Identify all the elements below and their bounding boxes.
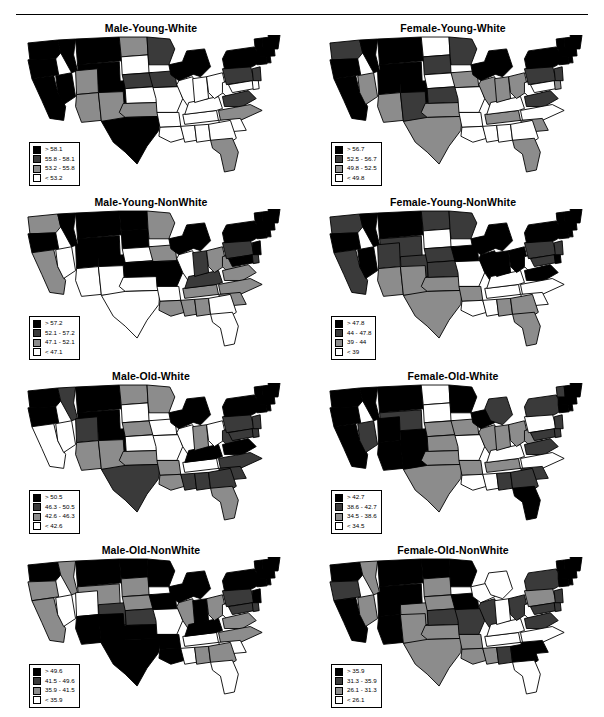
state-la [159,300,185,316]
state-ri [568,56,573,63]
state-az [378,615,404,645]
legend-swatch-icon [335,174,343,182]
legend-swatch-icon [335,146,343,154]
map-legend: > 58.155.8 - 58.153.2 - 55.8< 53.2 [29,142,80,187]
legend-label: 35.9 - 41.5 [45,687,75,693]
legend-label: 38.6 - 42.7 [347,504,377,510]
state-ne [424,247,455,263]
state-ne [424,595,455,611]
state-ms [181,473,197,490]
state-mt [378,37,424,65]
legend-row: 42.6 - 46.3 [33,512,75,521]
state-tx [403,116,462,164]
state-mn [147,211,175,239]
legend-label: > 56.7 [347,146,364,152]
map-panel: Female-Old-White> 42.738.6 - 42.734.5 - … [302,366,604,540]
state-mo [455,609,485,635]
legend-row: 34.5 - 38.6 [335,512,377,521]
legend-label: 42.6 - 46.3 [45,513,75,519]
legend-row: 35.9 - 41.5 [33,686,75,695]
state-ri [266,56,271,63]
state-nd [119,211,148,231]
state-mo [153,261,183,287]
state-az [378,441,404,471]
state-in [495,599,511,625]
state-ok [119,451,160,466]
state-az [76,441,102,471]
state-me [268,383,280,397]
state-nm [98,92,125,122]
state-ri [568,230,573,237]
state-nj [252,415,261,429]
map-legend: > 56.752.5 - 56.749.8 - 52.5< 49.8 [331,142,382,187]
legend-label: 52.1 - 57.2 [45,330,75,336]
panel-title: Male-Old-White [0,366,302,384]
legend-label: < 49.8 [347,175,364,181]
legend-row: 46.3 - 50.5 [33,503,75,512]
state-nd [421,211,450,231]
state-ok [421,451,462,466]
state-in [495,425,511,451]
state-ut [378,69,401,95]
state-nd [119,37,148,57]
state-sd [423,229,451,249]
state-fl [211,312,239,346]
state-ar [157,286,181,301]
state-me [268,35,280,49]
state-la [159,126,185,142]
state-ks [427,261,459,278]
state-de [554,602,561,612]
state-ks [125,609,157,626]
state-wa [330,388,363,408]
map-panel: Female-Old-NonWhite> 35.931.3 - 35.926.1… [302,540,604,714]
state-ar [157,634,181,649]
state-vt [556,386,565,397]
legend-label: > 42.7 [347,494,364,500]
legend-swatch-icon [33,174,41,182]
legend-swatch-icon [335,677,343,685]
state-mn [147,385,175,413]
state-wa [28,40,61,60]
state-sd [121,577,149,597]
legend-label: 26.1 - 31.3 [347,687,377,693]
state-ms [181,299,197,316]
state-in [193,599,209,625]
legend-label: 34.5 - 38.6 [347,513,377,519]
state-nd [119,385,148,405]
legend-row: 31.3 - 35.9 [335,677,377,686]
state-nd [421,559,450,579]
legend-row: < 39 [335,348,371,357]
legend-label: 44 - 47.8 [347,330,371,336]
legend-row: > 56.7 [335,145,377,154]
state-la [461,126,487,142]
state-fl [513,138,541,172]
legend-row: 52.1 - 57.2 [33,329,75,338]
state-ok [421,625,462,640]
legend-swatch-icon [33,329,41,337]
state-al [497,646,513,664]
state-in [193,425,209,451]
state-ri [568,404,573,411]
state-wa [330,562,363,582]
legend-swatch-icon [335,696,343,704]
legend-row: > 42.7 [335,493,377,502]
state-al [195,298,211,316]
state-mo [455,87,485,113]
legend-label: 55.8 - 58.1 [45,156,75,162]
legend-swatch-icon [335,503,343,511]
state-ne [424,421,455,437]
state-ar [459,460,483,475]
state-de [252,428,259,438]
state-la [461,474,487,490]
legend-row: 26.1 - 31.3 [335,686,377,695]
state-tx [403,290,462,338]
legend-label: < 34.5 [347,523,364,529]
state-az [378,93,404,123]
legend-swatch-icon [335,165,343,173]
state-ne [122,595,153,611]
legend-swatch-icon [335,687,343,695]
state-fl [513,312,541,346]
state-me [570,209,582,223]
state-in [193,251,209,277]
legend-row: 47.1 - 52.1 [33,338,75,347]
